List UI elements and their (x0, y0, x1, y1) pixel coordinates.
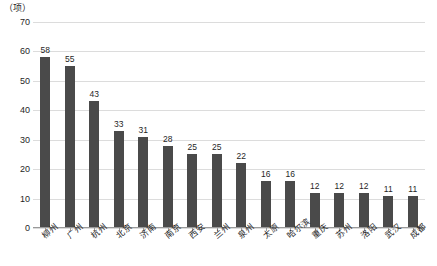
bar-value-label: 12 (327, 182, 351, 191)
bar-value-label: 55 (58, 55, 82, 64)
bar[interactable] (89, 101, 99, 228)
bar-value-label: 33 (107, 120, 131, 129)
plot-area (33, 22, 425, 228)
bar-value-label: 22 (229, 152, 253, 161)
y-axis-tick-label: 0 (4, 224, 30, 233)
y-axis-unit-label: （项） (4, 3, 31, 14)
bar-value-label: 16 (254, 170, 278, 179)
y-axis-tick-label: 10 (4, 195, 30, 204)
y-axis-tick-label: 20 (4, 165, 30, 174)
bar[interactable] (334, 193, 344, 228)
y-axis-tick-label: 40 (4, 106, 30, 115)
bar[interactable] (212, 154, 222, 228)
y-axis-tick-label: 70 (4, 18, 30, 27)
bar-value-label: 31 (131, 126, 155, 135)
gridline (33, 51, 425, 52)
bar[interactable] (383, 196, 393, 228)
bar-value-label: 16 (278, 170, 302, 179)
bar-value-label: 28 (156, 135, 180, 144)
bar[interactable] (261, 181, 271, 228)
bar-value-label: 11 (376, 185, 400, 194)
bar[interactable] (65, 66, 75, 228)
bar[interactable] (138, 137, 148, 228)
gridline (33, 81, 425, 82)
bar[interactable] (114, 131, 124, 228)
bar[interactable] (40, 57, 50, 228)
bar[interactable] (236, 163, 246, 228)
bar-value-label: 12 (303, 182, 327, 191)
bar[interactable] (408, 196, 418, 228)
bar[interactable] (359, 193, 369, 228)
gridline (33, 22, 425, 23)
bar-value-label: 25 (180, 143, 204, 152)
bar-value-label: 43 (82, 90, 106, 99)
bar[interactable] (285, 181, 295, 228)
bar-value-label: 25 (205, 143, 229, 152)
y-axis-tick-labels: 010203040506070 (0, 22, 30, 228)
y-axis-tick-label: 50 (4, 77, 30, 86)
bar[interactable] (163, 146, 173, 228)
bar-value-label: 11 (401, 185, 425, 194)
bar[interactable] (187, 154, 197, 228)
y-axis-tick-label: 30 (4, 136, 30, 145)
bar-value-label: 12 (352, 182, 376, 191)
bar-chart: （项） 010203040506070 柳州广州杭州北京济南南京西安兰州泉州太原… (0, 0, 437, 266)
y-axis-tick-label: 60 (4, 47, 30, 56)
bar-value-label: 58 (33, 46, 57, 55)
